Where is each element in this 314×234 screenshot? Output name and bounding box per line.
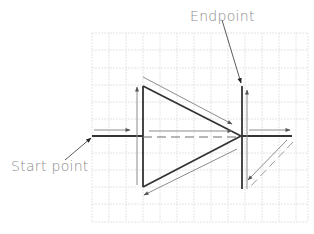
diagram-canvas: Endpoint Start point [0, 0, 314, 234]
start-point-label: Start point [11, 158, 89, 174]
background-grid [92, 33, 308, 222]
arrow-diagonal-return [248, 140, 287, 180]
endpoint-label: Endpoint [190, 8, 255, 24]
dashed-return [250, 142, 293, 187]
start-point-leader [65, 138, 91, 160]
endpoint-leader [222, 20, 241, 83]
arrow-diagonal-bottom [144, 149, 237, 195]
arrow-diagonal-down [143, 77, 232, 124]
